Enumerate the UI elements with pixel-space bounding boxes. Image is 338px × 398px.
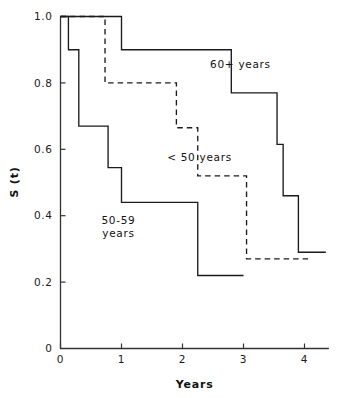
x-tick-label-3: 3 bbox=[240, 353, 247, 365]
y-axis-title: S (t) bbox=[8, 166, 21, 197]
x-tick-label-2: 2 bbox=[179, 353, 186, 365]
axis-lines bbox=[61, 17, 329, 349]
x-tick-label-0: 0 bbox=[57, 353, 64, 365]
plot-canvas: 0123400.20.40.60.81.0 60+ years< 50 year… bbox=[0, 0, 338, 398]
y-tick-label-0.4: 0.4 bbox=[34, 209, 53, 221]
curve-labels: 60+ years< 50 years50-59years bbox=[101, 58, 270, 239]
y-tick-label-0.8: 0.8 bbox=[34, 77, 53, 89]
survival-curves bbox=[61, 17, 326, 276]
curve-label-50-59-line2: years bbox=[102, 227, 134, 239]
x-tick-label-4: 4 bbox=[301, 353, 308, 365]
curve-50-59 bbox=[61, 17, 244, 276]
y-tick-label-0.6: 0.6 bbox=[34, 143, 53, 155]
survival-chart-figure: 0123400.20.40.60.81.0 60+ years< 50 year… bbox=[0, 0, 338, 398]
x-tick-label-1: 1 bbox=[118, 353, 125, 365]
y-tick-label-0: 0 bbox=[45, 342, 52, 354]
axes bbox=[61, 17, 329, 349]
y-tick-label-1.0: 1.0 bbox=[34, 10, 53, 22]
y-tick-label-0.2: 0.2 bbox=[34, 276, 53, 288]
curve-label-50-years: < 50 years bbox=[167, 151, 232, 163]
x-axis-title: Years bbox=[175, 378, 214, 391]
curve-60-years bbox=[61, 17, 326, 253]
curve-label-50-59-line1: 50-59 bbox=[101, 214, 135, 226]
curve-label-60-years: 60+ years bbox=[210, 58, 271, 70]
curve-50-years bbox=[61, 17, 311, 259]
